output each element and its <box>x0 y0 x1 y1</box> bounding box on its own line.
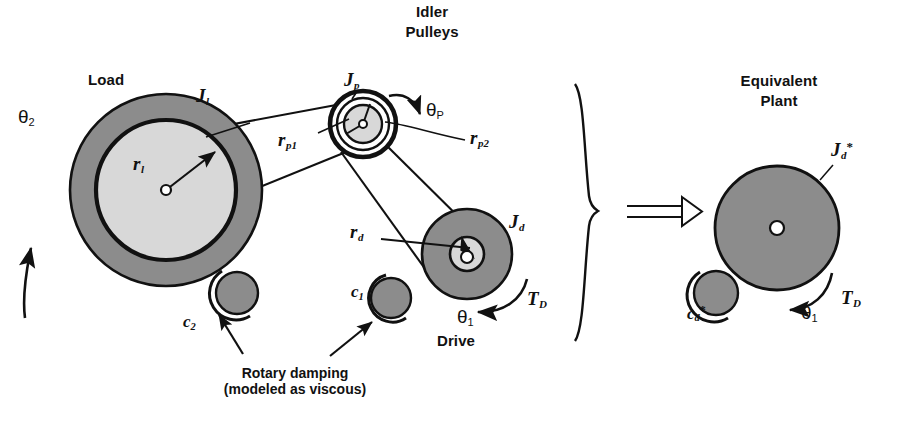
diagram-canvas <box>0 0 916 423</box>
theta2-sub: 2 <box>29 116 35 128</box>
J-p-sub: p <box>354 79 360 91</box>
theta-p-sub: P <box>437 109 444 121</box>
J-d-sub: d <box>519 221 525 233</box>
J-l-sub: l <box>206 95 209 107</box>
label-c1: c1 <box>351 283 364 302</box>
drive-pulley <box>422 209 512 299</box>
T-D-eq-base: T <box>841 287 853 308</box>
r-l-sub: l <box>141 163 144 175</box>
label-J-d-star: Jd* <box>831 140 853 162</box>
r-p2-base: r <box>470 127 477 148</box>
label-equivalent-plant-line2: Plant <box>716 93 842 109</box>
label-theta2: θ2 <box>18 107 35 128</box>
T-D-eq-sub: D <box>853 297 861 309</box>
label-idler-pulleys-line1: Idler <box>384 4 480 20</box>
label-load: Load <box>88 72 124 88</box>
c1-sub: 1 <box>359 291 364 302</box>
J-d-base: J <box>509 211 519 232</box>
theta2-base: θ <box>18 106 29 127</box>
load-hub <box>161 185 171 195</box>
implies-arrow <box>627 197 702 226</box>
idler-pulley <box>330 91 396 157</box>
damper-c2 <box>210 271 258 320</box>
r-p2-sub: p2 <box>478 137 489 149</box>
label-c2: c2 <box>183 313 196 332</box>
label-J-d: Jd <box>509 212 525 233</box>
damping-text-line2: (modeled as viscous) <box>224 381 366 397</box>
c-d-star-sup: * <box>700 303 706 317</box>
theta2-arrow <box>24 248 31 318</box>
c1-base: c <box>351 282 359 301</box>
label-rotary-damping: Rotary damping (modeled as viscous) <box>186 366 404 397</box>
theta1-sub: 1 <box>468 316 474 328</box>
c2-base: c <box>183 312 191 331</box>
J-d-star-sup: * <box>847 139 854 154</box>
label-r-l: rl <box>133 154 144 175</box>
label-equivalent-plant-line1: Equivalent <box>716 73 842 89</box>
damping-text-line1: Rotary damping <box>242 365 349 381</box>
theta1-eq-base: θ <box>801 302 812 323</box>
damping-leader-right <box>330 322 372 356</box>
equivalent-pulley <box>715 166 839 290</box>
label-r-p2: rp2 <box>470 128 489 149</box>
r-p1-sub: p1 <box>286 139 297 151</box>
label-T-D: TD <box>527 289 547 310</box>
grouping-brace <box>575 84 598 341</box>
theta1-eq-sub: 1 <box>812 312 818 324</box>
label-theta1: θ1 <box>457 307 474 328</box>
J-l-base: J <box>196 85 206 106</box>
T-D-sub: D <box>539 298 547 310</box>
theta-p-base: θ <box>426 99 437 120</box>
mechanical-system-diagram: Load Idler Pulleys Drive Equivalent Plan… <box>0 0 916 423</box>
r-d-sub: d <box>358 231 364 243</box>
load-pulley <box>70 94 262 286</box>
label-r-d: rd <box>350 222 363 243</box>
r-l-base: r <box>133 153 140 174</box>
label-T-D-equivalent: TD <box>841 288 861 309</box>
label-drive: Drive <box>437 333 475 349</box>
label-r-p1: rp1 <box>278 130 297 151</box>
T-D-base: T <box>527 288 539 309</box>
label-c-d-star: cd* <box>687 304 706 323</box>
label-J-p: Jp <box>344 70 360 91</box>
label-idler-pulleys-line2: Pulleys <box>380 24 484 40</box>
c2-sub: 2 <box>191 321 196 332</box>
r-d-base: r <box>350 221 357 242</box>
J-d-star-base: J <box>831 139 841 160</box>
label-theta-p: θP <box>426 100 444 121</box>
c-d-star-base: c <box>687 304 695 323</box>
label-J-l: Jl <box>196 86 209 107</box>
J-p-base: J <box>344 69 354 90</box>
damper-c1 <box>369 275 411 322</box>
label-theta1-equivalent: θ1 <box>801 303 818 324</box>
r-p1-base: r <box>278 129 285 150</box>
theta1-base: θ <box>457 306 468 327</box>
leader-J-d-star <box>820 165 833 180</box>
